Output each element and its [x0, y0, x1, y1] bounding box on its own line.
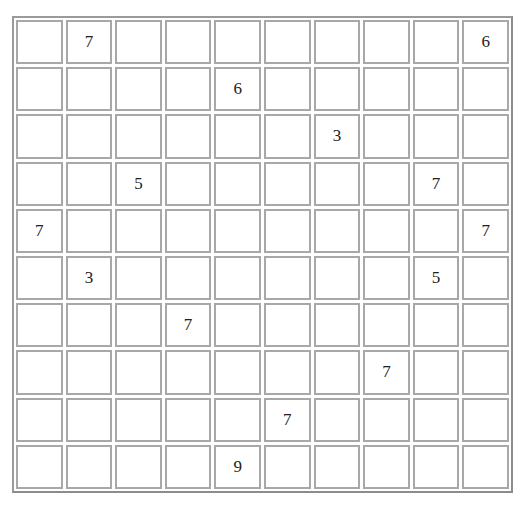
grid-cell-r7-c4[interactable]	[214, 350, 261, 394]
grid-cell-r1-c8[interactable]	[413, 67, 460, 111]
grid-cell-r5-c1[interactable]: 3	[66, 256, 113, 300]
grid-cell-r8-c2[interactable]	[115, 398, 162, 442]
grid-cell-r1-c1[interactable]	[66, 67, 113, 111]
grid-cell-r8-c1[interactable]	[66, 398, 113, 442]
grid-cell-r7-c9[interactable]	[462, 350, 509, 394]
grid-cell-r1-c7[interactable]	[363, 67, 410, 111]
grid-cell-r5-c8[interactable]: 5	[413, 256, 460, 300]
grid-cell-r6-c6[interactable]	[314, 303, 361, 347]
grid-cell-r7-c5[interactable]	[264, 350, 311, 394]
grid-cell-r7-c2[interactable]	[115, 350, 162, 394]
grid-cell-r3-c1[interactable]	[66, 162, 113, 206]
grid-cell-r9-c5[interactable]	[264, 445, 311, 489]
grid-cell-r0-c8[interactable]	[413, 20, 460, 64]
grid-cell-r8-c7[interactable]	[363, 398, 410, 442]
grid-cell-r3-c2[interactable]: 5	[115, 162, 162, 206]
grid-cell-r6-c5[interactable]	[264, 303, 311, 347]
grid-cell-r4-c6[interactable]	[314, 209, 361, 253]
grid-cell-r3-c9[interactable]	[462, 162, 509, 206]
grid-cell-r8-c6[interactable]	[314, 398, 361, 442]
grid-cell-r7-c1[interactable]	[66, 350, 113, 394]
grid-cell-r6-c4[interactable]	[214, 303, 261, 347]
grid-cell-r7-c8[interactable]	[413, 350, 460, 394]
grid-cell-r9-c1[interactable]	[66, 445, 113, 489]
grid-cell-r1-c0[interactable]	[16, 67, 63, 111]
grid-cell-r4-c7[interactable]	[363, 209, 410, 253]
grid-cell-r8-c4[interactable]	[214, 398, 261, 442]
grid-cell-r2-c1[interactable]	[66, 114, 113, 158]
grid-cell-r5-c9[interactable]	[462, 256, 509, 300]
grid-cell-r2-c3[interactable]	[165, 114, 212, 158]
grid-cell-r0-c0[interactable]	[16, 20, 63, 64]
grid-cell-r2-c5[interactable]	[264, 114, 311, 158]
grid-cell-r0-c1[interactable]: 7	[66, 20, 113, 64]
grid-cell-r0-c7[interactable]	[363, 20, 410, 64]
grid-cell-r6-c9[interactable]	[462, 303, 509, 347]
grid-cell-r5-c0[interactable]	[16, 256, 63, 300]
grid-cell-r9-c9[interactable]	[462, 445, 509, 489]
grid-cell-r7-c7[interactable]: 7	[363, 350, 410, 394]
grid-cell-r9-c3[interactable]	[165, 445, 212, 489]
grid-cell-r6-c3[interactable]: 7	[165, 303, 212, 347]
grid-cell-r1-c3[interactable]	[165, 67, 212, 111]
grid-cell-r7-c3[interactable]	[165, 350, 212, 394]
grid-cell-r3-c0[interactable]	[16, 162, 63, 206]
grid-cell-r1-c9[interactable]	[462, 67, 509, 111]
grid-cell-r5-c4[interactable]	[214, 256, 261, 300]
grid-cell-r5-c3[interactable]	[165, 256, 212, 300]
grid-cell-r9-c0[interactable]	[16, 445, 63, 489]
grid-cell-r6-c7[interactable]	[363, 303, 410, 347]
grid-cell-r2-c6[interactable]: 3	[314, 114, 361, 158]
grid-cell-r4-c4[interactable]	[214, 209, 261, 253]
grid-cell-r5-c5[interactable]	[264, 256, 311, 300]
grid-cell-r5-c7[interactable]	[363, 256, 410, 300]
grid-cell-r7-c6[interactable]	[314, 350, 361, 394]
grid-cell-r9-c6[interactable]	[314, 445, 361, 489]
grid-cell-r9-c2[interactable]	[115, 445, 162, 489]
grid-cell-r0-c6[interactable]	[314, 20, 361, 64]
grid-cell-r4-c5[interactable]	[264, 209, 311, 253]
grid-cell-r2-c2[interactable]	[115, 114, 162, 158]
grid-cell-r2-c0[interactable]	[16, 114, 63, 158]
grid-cell-r1-c4[interactable]: 6	[214, 67, 261, 111]
grid-cell-r3-c5[interactable]	[264, 162, 311, 206]
grid-cell-r4-c2[interactable]	[115, 209, 162, 253]
grid-cell-r2-c8[interactable]	[413, 114, 460, 158]
grid-cell-r3-c4[interactable]	[214, 162, 261, 206]
grid-cell-r4-c1[interactable]	[66, 209, 113, 253]
grid-cell-r6-c2[interactable]	[115, 303, 162, 347]
grid-cell-r8-c3[interactable]	[165, 398, 212, 442]
grid-cell-r9-c4[interactable]: 9	[214, 445, 261, 489]
grid-cell-r0-c5[interactable]	[264, 20, 311, 64]
grid-cell-r3-c3[interactable]	[165, 162, 212, 206]
grid-cell-r0-c2[interactable]	[115, 20, 162, 64]
grid-cell-r6-c8[interactable]	[413, 303, 460, 347]
grid-cell-r3-c7[interactable]	[363, 162, 410, 206]
grid-cell-r9-c8[interactable]	[413, 445, 460, 489]
grid-cell-r1-c2[interactable]	[115, 67, 162, 111]
grid-cell-r2-c4[interactable]	[214, 114, 261, 158]
grid-cell-r7-c0[interactable]	[16, 350, 63, 394]
grid-cell-r6-c1[interactable]	[66, 303, 113, 347]
grid-cell-r8-c0[interactable]	[16, 398, 63, 442]
grid-cell-r6-c0[interactable]	[16, 303, 63, 347]
grid-cell-r4-c8[interactable]	[413, 209, 460, 253]
grid-cell-r1-c5[interactable]	[264, 67, 311, 111]
grid-cell-r0-c9[interactable]: 6	[462, 20, 509, 64]
grid-cell-r0-c3[interactable]	[165, 20, 212, 64]
grid-cell-r3-c6[interactable]	[314, 162, 361, 206]
grid-cell-r4-c3[interactable]	[165, 209, 212, 253]
grid-cell-r9-c7[interactable]	[363, 445, 410, 489]
grid-cell-r8-c9[interactable]	[462, 398, 509, 442]
grid-cell-r4-c9[interactable]: 7	[462, 209, 509, 253]
grid-cell-r8-c8[interactable]	[413, 398, 460, 442]
grid-cell-r5-c6[interactable]	[314, 256, 361, 300]
grid-cell-r3-c8[interactable]: 7	[413, 162, 460, 206]
grid-cell-r0-c4[interactable]	[214, 20, 261, 64]
grid-cell-r5-c2[interactable]	[115, 256, 162, 300]
grid-cell-r2-c7[interactable]	[363, 114, 410, 158]
grid-cell-r2-c9[interactable]	[462, 114, 509, 158]
grid-cell-r4-c0[interactable]: 7	[16, 209, 63, 253]
grid-cell-r1-c6[interactable]	[314, 67, 361, 111]
grid-cell-r8-c5[interactable]: 7	[264, 398, 311, 442]
